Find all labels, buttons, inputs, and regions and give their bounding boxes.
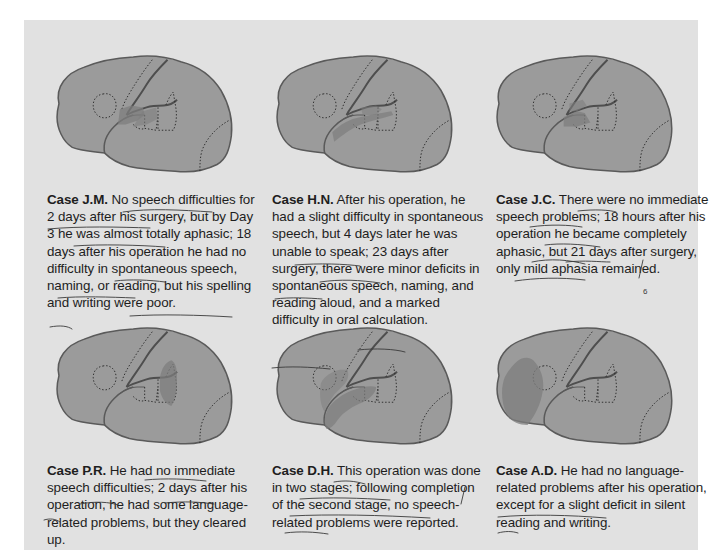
brain-diagram-jm [38,45,238,185]
brain-diagram-ad [478,317,678,457]
case-caption-ad: Case A.D. He had no language-related pro… [496,462,711,531]
case-caption-pr: Case P.R. He had no immediate speech dif… [47,462,262,548]
brain-diagram-hn [258,45,458,185]
brain-diagram-dh [258,317,458,457]
brain-diagram-pr [38,317,238,457]
case-title: Case H.N. [272,192,334,207]
case-title: Case J.M. [47,192,108,207]
case-caption-jm: Case J.M. No speech difficulties for 2 d… [47,191,262,311]
case-title: Case P.R. [47,463,106,478]
case-title: Case D.H. [272,463,334,478]
case-title: Case J.C. [496,192,555,207]
case-title: Case A.D. [496,463,557,478]
case-caption-hn: Case H.N. After his operation, he had a … [272,191,487,329]
case-text: After his operation, he had a slight dif… [272,192,483,327]
brain-diagram-jc [478,45,678,185]
case-caption-dh: Case D.H. This operation was done in two… [272,462,487,531]
case-caption-jc: Case J.C. There were no immediate speech… [496,191,711,277]
case-text: No speech difficulties for 2 days after … [47,192,255,310]
